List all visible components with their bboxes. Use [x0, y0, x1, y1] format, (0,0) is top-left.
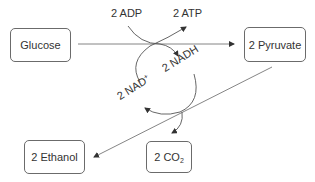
atp-label: 2 ATP	[173, 7, 202, 19]
adp-label: 2 ADP	[111, 7, 142, 19]
adp-to-nadh-arc	[128, 26, 178, 56]
glucose-node: Glucose	[10, 28, 71, 62]
ethanol-label: 2 Ethanol	[31, 151, 77, 163]
ethanol-node: 2 Ethanol	[24, 140, 85, 174]
pyruvate-label: 2 Pyruvate	[249, 39, 302, 51]
glucose-label: Glucose	[20, 39, 60, 51]
co2-node: 2 CO2	[146, 141, 192, 173]
co2-label: 2 CO2	[154, 151, 184, 164]
pyruvate-node: 2 Pyruvate	[244, 27, 306, 62]
nadh-to-nad-cycle	[145, 74, 196, 114]
